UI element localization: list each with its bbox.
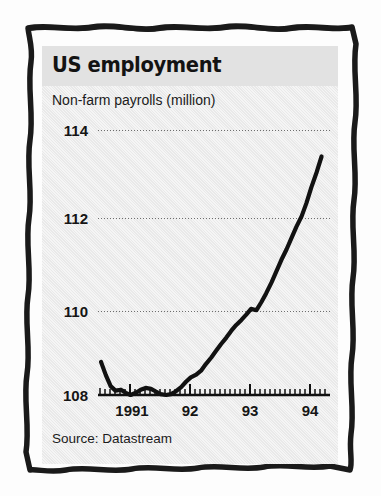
x-tick-label-94: 94 [292, 402, 328, 419]
x-tick-label-92: 92 [172, 402, 208, 419]
x-tick-label-1991: 1991 [110, 402, 154, 419]
series-line-non-farm-payrolls [101, 157, 322, 396]
x-tick-label-93: 93 [232, 402, 268, 419]
chart-figure: US employment Non-farm payrolls (million… [0, 0, 381, 496]
chart-panel: US employment Non-farm payrolls (million… [42, 46, 338, 464]
plot-area: 114 112 110 108 [42, 46, 338, 464]
source-note: Source: Datastream [52, 431, 172, 446]
